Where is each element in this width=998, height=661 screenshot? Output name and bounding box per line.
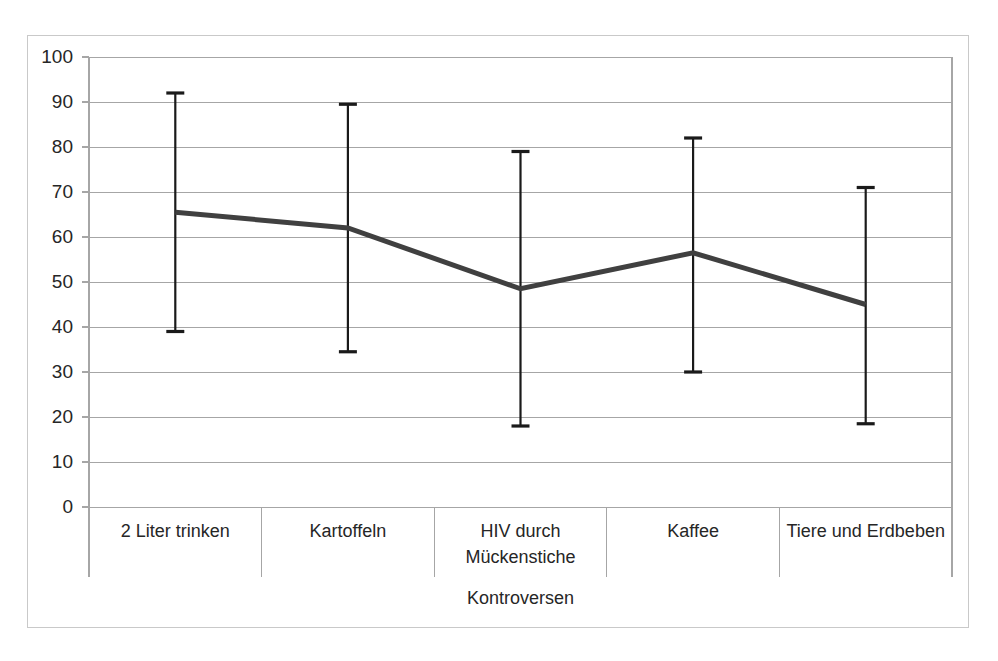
category-label: Tiere und Erdbeben <box>786 521 944 541</box>
y-axis-tick-label: 40 <box>52 316 73 337</box>
chart-container: 0102030405060708090100 2 Liter trinkenKa… <box>0 0 998 661</box>
y-axis-tick-label: 70 <box>52 181 73 202</box>
y-axis-tick-label: 20 <box>52 406 73 427</box>
category-label: Kartoffeln <box>310 521 387 541</box>
y-axis-ticks <box>82 57 89 507</box>
y-axis-tick-label: 90 <box>52 91 73 112</box>
chart-plot: 0102030405060708090100 2 Liter trinkenKa… <box>0 0 998 661</box>
category-label: 2 Liter trinken <box>121 521 230 541</box>
category-label: HIV durch <box>480 521 560 541</box>
y-axis-tick-label: 10 <box>52 451 73 472</box>
x-axis-title: Kontroversen <box>467 588 574 608</box>
y-axis-tick-label: 80 <box>52 136 73 157</box>
category-label: Mückenstiche <box>465 547 575 567</box>
category-labels: 2 Liter trinkenKartoffelnHIV durchMücken… <box>121 521 945 567</box>
y-axis-tick-label: 30 <box>52 361 73 382</box>
y-axis-tick-labels: 0102030405060708090100 <box>41 46 73 517</box>
y-axis-tick-label: 100 <box>41 46 73 67</box>
error-bars <box>166 93 874 426</box>
y-axis-tick-label: 50 <box>52 271 73 292</box>
y-axis-tick-label: 60 <box>52 226 73 247</box>
category-label: Kaffee <box>667 521 719 541</box>
y-axis-tick-label: 0 <box>62 496 73 517</box>
